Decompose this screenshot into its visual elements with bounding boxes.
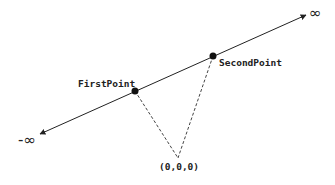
negative-infinity-label: -∞ [18,131,36,149]
origin-label: (0,0,0) [159,161,199,172]
line-diagram: FirstPoint SecondPoint (0,0,0) -∞ ∞ [0,0,335,185]
dashed-line-origin-to-second [178,56,213,158]
positive-infinity-label: ∞ [309,4,322,22]
second-point-dot [210,53,217,60]
dashed-line-origin-to-first [135,91,178,158]
infinite-line [40,15,306,134]
second-point-label: SecondPoint [219,57,282,68]
first-point-label: FirstPoint [78,78,135,89]
